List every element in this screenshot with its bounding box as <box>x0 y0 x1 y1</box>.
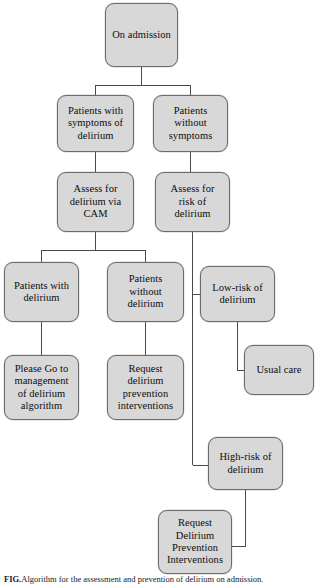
node-request-delirium-prevention-interventions-lower[interactable]: Request delirium prevention intervention… <box>107 355 184 420</box>
node-patients-without-symptoms[interactable]: Patients without symptoms <box>153 95 228 152</box>
node-request-delirium-prevention-interventions-caps-label: Request Delirium Prevention Intervention… <box>159 517 231 567</box>
node-assess-for-risk-of-delirium-label: Assess for risk of delirium <box>156 183 229 220</box>
node-patients-without-symptoms-label: Patients without symptoms <box>154 105 227 142</box>
node-usual-care[interactable]: Usual care <box>244 345 314 395</box>
node-patients-without-delirium[interactable]: Patients without delirium <box>107 262 184 322</box>
node-on-admission-label: On admission <box>106 29 177 41</box>
node-assess-for-delirium-via-cam-label: Assess for delirium via CAM <box>58 183 133 220</box>
node-request-delirium-prevention-interventions-lower-label: Request delirium prevention intervention… <box>108 363 183 413</box>
node-assess-for-risk-of-delirium[interactable]: Assess for risk of delirium <box>155 172 230 232</box>
node-high-risk-of-delirium[interactable]: High-risk of delirium <box>208 437 283 490</box>
figure-caption-prefix: FIG. <box>4 575 21 584</box>
node-patients-with-delirium[interactable]: Patients with delirium <box>4 262 79 322</box>
node-patients-with-symptoms[interactable]: Patients with symptoms of delirium <box>57 95 134 152</box>
node-high-risk-of-delirium-label: High-risk of delirium <box>209 451 282 476</box>
edge-high-risk-to-request-caps <box>232 490 246 546</box>
node-patients-with-delirium-label: Patients with delirium <box>5 280 78 305</box>
node-low-risk-of-delirium-label: Low-risk of delirium <box>201 282 274 307</box>
node-assess-for-delirium-via-cam[interactable]: Assess for delirium via CAM <box>57 172 134 232</box>
node-management-of-delirium-algorithm-label: Please Go to management of delirium algo… <box>5 363 78 413</box>
figure-caption-text: FIG.Algorithm for the assessment and pre… <box>4 575 316 584</box>
figure-caption: FIG.Algorithm for the assessment and pre… <box>4 575 316 584</box>
node-patients-with-symptoms-label: Patients with symptoms of delirium <box>58 105 133 142</box>
node-low-risk-of-delirium[interactable]: Low-risk of delirium <box>200 266 275 322</box>
node-request-delirium-prevention-interventions-caps[interactable]: Request Delirium Prevention Intervention… <box>158 510 232 574</box>
node-patients-without-delirium-label: Patients without delirium <box>108 273 183 310</box>
figure-caption-body: Algorithm for the assessment and prevent… <box>21 575 263 584</box>
node-management-of-delirium-algorithm[interactable]: Please Go to management of delirium algo… <box>4 355 79 420</box>
node-on-admission[interactable]: On admission <box>105 3 178 67</box>
node-usual-care-label: Usual care <box>245 364 313 376</box>
flowchart-canvas: On admission Patients with symptoms of d… <box>0 0 320 584</box>
